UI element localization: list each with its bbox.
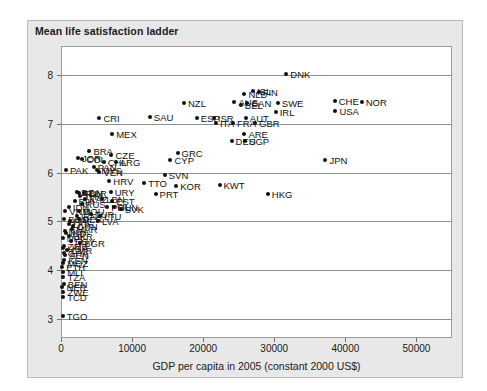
y-tick-mark: [57, 319, 61, 320]
point-label: TTO: [148, 179, 167, 189]
scatter-point: [182, 101, 186, 105]
scatter-point: [61, 295, 65, 299]
plot-area: DNKNORCHEUSASWEIRLFINISLNLDAUSBELCANAUTG…: [61, 46, 452, 338]
y-tick-label: 7: [7, 118, 53, 129]
point-label: NPL: [67, 234, 85, 244]
point-label: CAN: [251, 99, 271, 109]
gridline-y: [61, 75, 452, 76]
point-label: ITA: [220, 119, 234, 129]
scatter-point: [148, 115, 152, 119]
point-label: CRI: [103, 114, 119, 124]
scatter-point: [62, 217, 66, 221]
scatter-point: [67, 222, 71, 226]
point-label: TGO: [67, 312, 88, 322]
scatter-point: [60, 285, 64, 289]
y-tick-mark: [57, 75, 61, 76]
scatter-point: [60, 265, 64, 269]
point-label: NZL: [188, 99, 206, 109]
scatter-point: [276, 101, 280, 105]
scatter-point: [195, 116, 199, 120]
point-label: ZWE: [67, 288, 88, 298]
point-label: SAU: [154, 113, 174, 123]
x-tick-mark: [203, 338, 204, 342]
scatter-point: [230, 139, 234, 143]
x-tick-mark: [345, 338, 346, 342]
point-label: MEX: [116, 130, 137, 140]
scatter-point: [61, 236, 65, 240]
y-tick-label: 4: [7, 264, 53, 275]
y-tick-mark: [57, 270, 61, 271]
x-tick-label: 0: [58, 343, 64, 354]
scatter-point: [76, 156, 80, 160]
y-tick-label: 8: [7, 70, 53, 81]
x-tick-mark: [132, 338, 133, 342]
scatter-point: [61, 261, 65, 265]
y-tick-label: 5: [7, 216, 53, 227]
y-tick-mark: [57, 173, 61, 174]
point-label: DNK: [290, 70, 310, 80]
point-label: HRV: [113, 177, 133, 187]
scatter-point: [107, 179, 111, 183]
scatter-point: [63, 209, 67, 213]
x-axis-title: GDP per capita in 2005 (constant 2000 US…: [61, 360, 452, 372]
scatter-point: [333, 109, 337, 113]
scatter-point: [61, 270, 65, 274]
scatter-point: [242, 132, 246, 136]
point-label: IRL: [280, 108, 295, 118]
scatter-point: [266, 192, 270, 196]
point-label: TZA: [67, 273, 85, 283]
point-label: PRT: [160, 190, 179, 200]
scatter-point: [360, 100, 364, 104]
point-label: FRA: [237, 119, 256, 129]
y-tick-mark: [57, 221, 61, 222]
scatter-point: [97, 170, 101, 174]
x-tick-label: 40000: [331, 343, 359, 354]
x-tick-mark: [61, 338, 62, 342]
x-tick-label: 20000: [189, 343, 217, 354]
point-label: SVN: [169, 171, 189, 181]
scatter-point: [174, 184, 178, 188]
scatter-point: [61, 275, 65, 279]
y-tick-mark: [57, 124, 61, 125]
scatter-point: [323, 158, 327, 162]
point-label: SGP: [249, 137, 269, 147]
point-label: USA: [339, 107, 359, 117]
chart-screenshot: Mean life satisfaction ladder DNKNORCHEU…: [0, 0, 487, 391]
point-label: JPN: [329, 156, 347, 166]
scatter-point: [218, 183, 222, 187]
scatter-point: [63, 253, 67, 257]
scatter-point: [274, 110, 278, 114]
gridline-y: [61, 270, 452, 271]
scatter-point: [110, 132, 114, 136]
point-label: NOR: [366, 98, 387, 108]
scatter-point: [333, 99, 337, 103]
scatter-point: [163, 173, 167, 177]
scatter-point: [105, 205, 109, 209]
y-tick-label: 3: [7, 313, 53, 324]
x-tick-mark: [274, 338, 275, 342]
point-label: CHE: [339, 97, 359, 107]
point-label: KWT: [224, 181, 245, 191]
scatter-point: [168, 158, 172, 162]
x-tick-label: 30000: [260, 343, 288, 354]
scatter-point: [212, 116, 216, 120]
y-tick-label: 6: [7, 167, 53, 178]
point-label: HKG: [272, 190, 293, 200]
x-tick-mark: [416, 338, 417, 342]
point-label: GBR: [259, 119, 280, 129]
chart-title: Mean life satisfaction ladder: [35, 25, 179, 37]
scatter-point: [63, 229, 67, 233]
point-label: KOR: [180, 182, 201, 192]
x-tick-label: 10000: [118, 343, 146, 354]
point-label: LKA: [73, 220, 91, 230]
scatter-point: [232, 100, 236, 104]
scatter-point: [97, 116, 101, 120]
scatter-point: [242, 92, 246, 96]
point-label: CYP: [174, 156, 194, 166]
scatter-point: [61, 314, 65, 318]
gridline-y: [61, 319, 452, 320]
scatter-point: [62, 244, 66, 248]
scatter-point: [64, 168, 68, 172]
scatter-point: [243, 139, 247, 143]
scatter-point: [61, 290, 65, 294]
